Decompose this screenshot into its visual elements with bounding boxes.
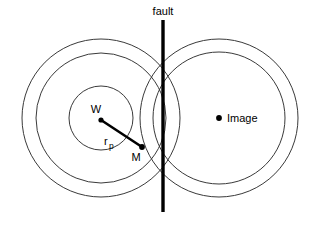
fault-label: fault [153, 5, 174, 17]
well-label: W [91, 103, 102, 115]
image-well-label: Image [227, 112, 258, 124]
diagram-canvas: fault W M r p Image [0, 0, 321, 226]
radius-label: r [104, 135, 108, 147]
image-point [216, 115, 222, 121]
diagram-background [0, 0, 321, 226]
measure-point-label: M [131, 151, 140, 163]
well-point [98, 117, 103, 122]
fault-image-well-diagram: fault W M r p Image [0, 0, 321, 226]
measure-point [139, 144, 145, 150]
radius-subscript-label: p [109, 141, 114, 151]
